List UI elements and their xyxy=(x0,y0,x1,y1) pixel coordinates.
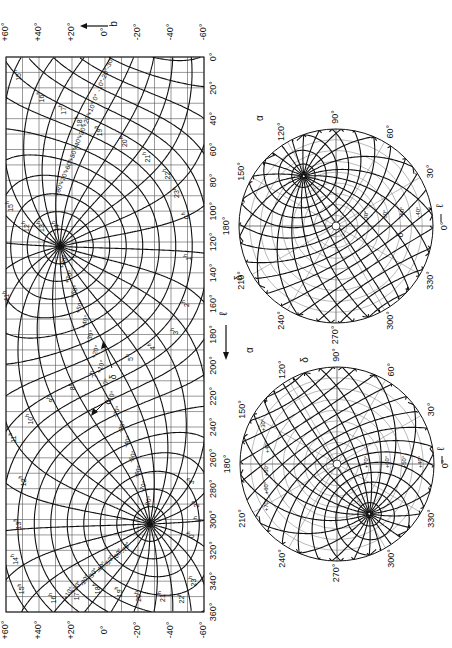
equatorial-curve xyxy=(370,511,420,516)
rim-longitude-label: 210° xyxy=(237,509,247,528)
l-axis-tick: 340° xyxy=(208,571,218,590)
b-axis-symbol: b xyxy=(108,21,119,27)
declination-label: -40° xyxy=(122,435,132,449)
rim-longitude-label: 150° xyxy=(236,162,246,181)
rim-longitude-label: 270° xyxy=(331,563,341,582)
hour-label: 15h xyxy=(13,70,23,81)
b-axis-tick-top: +60° xyxy=(0,22,10,41)
equatorial-curve xyxy=(370,515,400,538)
b-axis-tick-bottom: 0° xyxy=(99,625,109,634)
declination-label: -60° xyxy=(132,465,142,479)
rim-longitude-label: 240° xyxy=(277,549,287,568)
equatorial-curve xyxy=(370,515,381,550)
arrowhead-icon xyxy=(80,23,87,29)
l-axis-symbol: ℓ xyxy=(217,312,229,316)
equatorial-curve xyxy=(305,177,400,299)
l-axis-tick: 180° xyxy=(208,325,218,344)
galactic-pole-marker xyxy=(333,460,341,468)
hour-label: 8h xyxy=(67,383,77,390)
galactic-pole-marker xyxy=(332,222,340,230)
l-axis-tick: 240° xyxy=(208,417,218,436)
declination-label: +50° xyxy=(263,463,269,476)
l-axis-tick: 100° xyxy=(208,201,218,220)
declination-label: +40° xyxy=(264,440,270,453)
declination-label: +70° xyxy=(63,269,74,285)
l-axis-tick: 160° xyxy=(208,294,218,313)
b-axis-tick-bottom: +60° xyxy=(0,620,10,639)
l-axis-tick: 20° xyxy=(208,81,218,95)
declination-label: +40° xyxy=(417,455,423,468)
equatorial-curve xyxy=(317,246,430,321)
hour-label: 22h xyxy=(161,169,171,180)
b-axis-tick-top: -60° xyxy=(198,23,208,40)
declination-label: +20° xyxy=(90,344,101,360)
l-axis-tick: 220° xyxy=(208,386,218,405)
rim-longitude-label: 330° xyxy=(425,271,435,290)
delta-symbol: δ xyxy=(233,275,244,281)
galactic-coordinate-figure: 15h16h17h18h19h20h21h22h23h0h1h2h3h4h5h7… xyxy=(0,0,452,648)
hour-label: 22h xyxy=(176,593,186,604)
rim-longitude-label: 30° xyxy=(426,402,436,416)
hour-label: 9h xyxy=(46,396,56,403)
b-axis-tick-bottom: +20° xyxy=(66,620,76,639)
hour-label: 2h xyxy=(181,300,191,307)
l-axis-tick: 360° xyxy=(208,602,218,621)
arrowhead-icon xyxy=(223,352,229,360)
rim-longitude-label: 300° xyxy=(385,311,395,330)
rim-longitude-label: 300° xyxy=(386,549,396,568)
b-axis-tick-top: 0° xyxy=(99,27,109,36)
l-axis-tick: 300° xyxy=(208,510,218,529)
l-axis-tick: 40° xyxy=(208,111,218,125)
rectangular-galactic-chart: 15h16h17h18h19h20h21h22h23h0h1h2h3h4h5h7… xyxy=(0,22,250,639)
equatorial-curve xyxy=(292,140,303,175)
delta-symbol: δ xyxy=(395,232,405,237)
equatorial-curve xyxy=(253,174,303,179)
declination-label: -60° xyxy=(382,209,388,221)
equatorial-curve xyxy=(3,58,59,247)
declination-label: +70° xyxy=(363,455,369,468)
l-axis-tick: 120° xyxy=(208,232,218,251)
b-axis-tick-bottom: -60° xyxy=(198,621,208,638)
l-axis-tick: 0° xyxy=(208,52,218,61)
hour-label: 2h xyxy=(191,501,201,508)
rim-longitude-label: 60° xyxy=(385,124,395,138)
rim-longitude-label: 180° xyxy=(221,216,231,235)
l-axis-tick: 140° xyxy=(208,263,218,282)
rim-longitude-label: 90° xyxy=(331,348,341,362)
hour-label: 5h xyxy=(125,354,135,361)
hour-label: 14h xyxy=(9,554,19,565)
l-axis-symbol: ℓ xyxy=(434,204,445,208)
hour-labels: 15h16h17h18h19h20h21h22h23h0h1h2h3h4h5h7… xyxy=(1,55,202,603)
south-celestial-pole xyxy=(148,522,152,526)
hour-label: 21h xyxy=(141,152,151,163)
rim-longitude-label: 120° xyxy=(277,360,287,379)
l-axis-tick: 260° xyxy=(208,448,218,467)
delta-symbol: δ xyxy=(108,374,118,379)
rim-longitude-label: 150° xyxy=(237,400,247,419)
rim-longitude-label: 120° xyxy=(276,122,286,141)
equatorial-curve xyxy=(150,525,157,612)
declination-label: -70° xyxy=(363,210,369,222)
alpha-symbol: α xyxy=(254,115,265,121)
declination-label: +30° xyxy=(84,329,95,345)
declination-label: -40° xyxy=(415,206,421,218)
equatorial-curve xyxy=(312,369,357,403)
rim-longitude-label: 330° xyxy=(426,509,436,528)
b-axis-tick-top: +20° xyxy=(66,22,76,41)
b-axis-tick-bottom: -20° xyxy=(132,621,142,638)
hour-label: 11h xyxy=(1,291,11,301)
hour-label: 18h xyxy=(92,583,102,594)
declination-label: -50° xyxy=(399,206,405,218)
declination-label: +60° xyxy=(263,481,269,494)
b-axis-tick-top: +40° xyxy=(33,22,43,41)
l-axis-tick: 280° xyxy=(208,479,218,498)
l-axis-symbol: ℓ xyxy=(435,447,446,451)
l-axis-tick: 80° xyxy=(208,173,218,187)
l-axis-tick: 320° xyxy=(208,541,218,560)
declination-label: 0° xyxy=(91,93,100,102)
hour-label: 16h xyxy=(36,92,46,103)
rim-longitude-label: 30° xyxy=(425,164,435,178)
circular-chart-top: 0°30°60°90°120°150°180°210°240°270°300°3… xyxy=(221,110,449,345)
hour-label: 15h xyxy=(16,583,26,594)
equatorial-curve xyxy=(153,57,201,61)
